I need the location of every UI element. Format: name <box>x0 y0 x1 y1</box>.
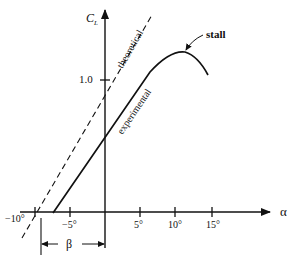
x-axis-label: α <box>280 205 287 218</box>
x-tick-label-5: 5° <box>134 220 143 230</box>
stall-arrow <box>186 35 203 50</box>
lift-curve-diagram <box>0 0 304 262</box>
x-tick-label-10: 10° <box>168 220 182 230</box>
y-axis-label: CL <box>86 12 98 27</box>
y-tick-label-1: 1.0 <box>79 74 93 85</box>
experimental-curve <box>53 52 208 213</box>
stall-label: stall <box>206 29 226 40</box>
x-tick-label-neg5: −5° <box>62 220 77 230</box>
x-tick-label-neg10: −10° <box>5 214 25 224</box>
x-tick-label-15: 15° <box>206 220 220 230</box>
y-axis-label-main: C <box>86 11 94 25</box>
y-axis-label-sub: L <box>94 19 98 27</box>
beta-label: β <box>66 238 72 250</box>
